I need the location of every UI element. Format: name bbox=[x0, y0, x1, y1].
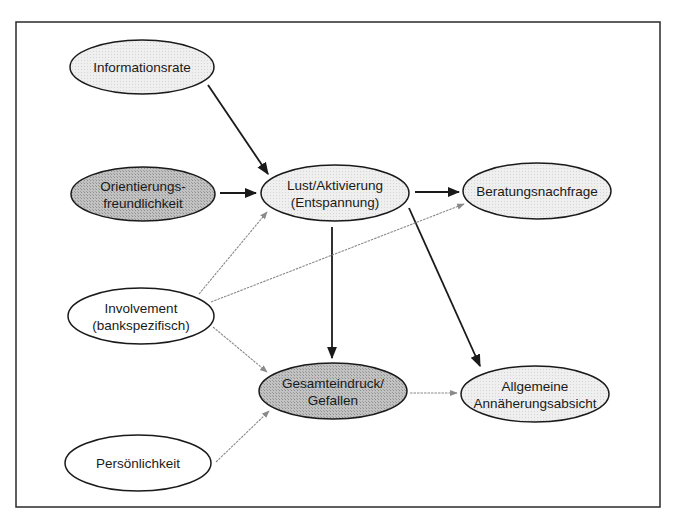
node-lust-aktivierung: Lust/Aktivierung(Entspannung) bbox=[261, 165, 409, 221]
node-label: Allgemeine bbox=[502, 379, 569, 394]
node-label: (Entspannung) bbox=[291, 195, 380, 210]
node-ellipse bbox=[68, 288, 214, 344]
node-label: Gefallen bbox=[308, 393, 358, 408]
node-persoenlichkeit: Persönlichkeit bbox=[65, 435, 211, 491]
node-ellipse bbox=[461, 366, 609, 422]
node-label: (bankspezifisch) bbox=[92, 318, 190, 333]
node-informationsrate: Informationsrate bbox=[70, 40, 214, 94]
nodes-layer: InformationsrateOrientierungs-freundlich… bbox=[65, 40, 611, 491]
edge-persoenlichkeit-to-gesamteindruck bbox=[216, 411, 269, 462]
node-ellipse bbox=[259, 363, 407, 419]
node-label: Beratungsnachfrage bbox=[476, 184, 598, 199]
node-ellipse bbox=[71, 167, 215, 221]
node-ellipse bbox=[261, 165, 409, 221]
edge-informationsrate-to-lust-aktivierung bbox=[208, 85, 268, 174]
node-allgemeine-annaeherungsabsicht: AllgemeineAnnäherungsabsicht bbox=[461, 366, 609, 422]
node-label: Orientierungs- bbox=[100, 179, 186, 194]
node-gesamteindruck: Gesamteindruck/Gefallen bbox=[259, 363, 407, 419]
node-label: Gesamteindruck/ bbox=[282, 376, 384, 391]
node-label: Lust/Aktivierung bbox=[287, 178, 383, 193]
node-label: Informationsrate bbox=[93, 60, 191, 75]
edge-lust-aktivierung-to-allgemeine-annaeherungsabsicht bbox=[409, 208, 480, 366]
node-label: Involvement bbox=[105, 301, 178, 316]
diagram-frame bbox=[16, 22, 660, 507]
diagram-canvas: InformationsrateOrientierungs-freundlich… bbox=[0, 0, 681, 518]
edge-involvement-to-gesamteindruck bbox=[213, 327, 267, 372]
edge-involvement-to-lust-aktivierung bbox=[199, 212, 267, 294]
node-involvement: Involvement(bankspezifisch) bbox=[68, 288, 214, 344]
node-label: freundlichkeit bbox=[103, 196, 183, 211]
node-label: Persönlichkeit bbox=[96, 456, 180, 471]
node-label: Annäherungsabsicht bbox=[473, 396, 596, 411]
node-beratungsnachfrage: Beratungsnachfrage bbox=[463, 163, 611, 219]
node-orientierungsfreundlichkeit: Orientierungs-freundlichkeit bbox=[71, 167, 215, 221]
